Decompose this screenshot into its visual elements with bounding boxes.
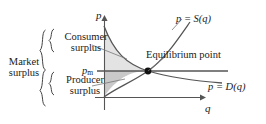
supply-curve-label: p = S(q) bbox=[176, 13, 211, 24]
market-surplus-label-line1: Market bbox=[2, 56, 46, 67]
market-surplus-figure: Consumer surplus Producer surplus Market… bbox=[0, 0, 266, 124]
p-axis-label: p bbox=[96, 10, 102, 22]
market-surplus-label-line2: surplus bbox=[2, 67, 46, 78]
q-axis-label: q bbox=[205, 103, 211, 115]
q-axis-arrow-icon bbox=[200, 94, 206, 100]
consumer-surplus-label-line1: Consumer bbox=[55, 31, 117, 42]
producer-surplus-label: Producer surplus bbox=[54, 74, 116, 96]
equilibrium-point-label: Equilibrium point bbox=[146, 49, 221, 60]
consumer-surplus-label-line2: surplus bbox=[55, 42, 117, 53]
price-level-label: pm bbox=[82, 65, 93, 77]
price-level-label-subscript: m bbox=[87, 68, 93, 77]
p-axis-arrow-icon bbox=[101, 15, 107, 21]
demand-curve-label: p = D(q) bbox=[208, 81, 245, 92]
consumer-surplus-label: Consumer surplus bbox=[55, 31, 117, 53]
consumer-surplus-brace bbox=[49, 29, 54, 52]
producer-surplus-label-line2: surplus bbox=[54, 85, 116, 96]
market-surplus-label: Market surplus bbox=[2, 56, 46, 78]
